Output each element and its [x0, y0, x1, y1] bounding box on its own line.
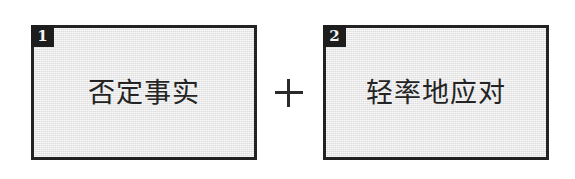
concept-box-1[interactable]: 1 否定事实	[31, 25, 257, 160]
plus-icon-vertical-bar	[287, 79, 290, 107]
concept-box-2[interactable]: 2 轻率地应对	[323, 25, 549, 160]
box-number-badge-1: 1	[31, 25, 54, 47]
concept-box-2-label: 轻率地应对	[366, 79, 506, 106]
plus-icon	[275, 79, 303, 107]
box-number-badge-2: 2	[323, 25, 346, 47]
concept-box-1-label: 否定事实	[88, 79, 200, 106]
diagram-canvas: 1 否定事实 2 轻率地应对	[0, 0, 575, 179]
